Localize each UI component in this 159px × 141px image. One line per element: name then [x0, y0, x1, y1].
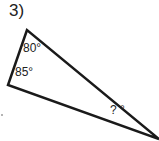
angle-top-label: 80° — [23, 42, 41, 54]
angle-left-label: 85° — [15, 66, 33, 78]
stray-dot — [1, 114, 3, 116]
angle-right-label: ? ° — [110, 104, 125, 116]
